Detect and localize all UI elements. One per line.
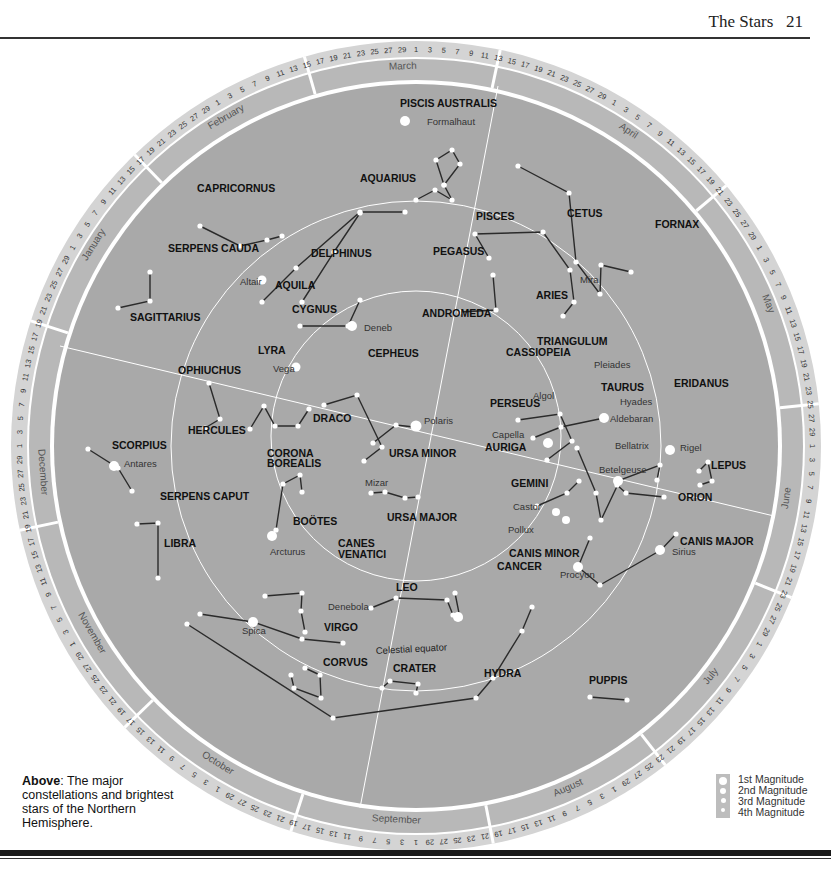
star-label: Pollux <box>508 524 534 535</box>
constellation-label: VIRGO <box>324 621 358 633</box>
star-label: Castor <box>513 501 541 512</box>
star-label: Bellatrix <box>615 440 649 451</box>
magnitude-4-dot <box>721 808 725 812</box>
day-tick: 21 <box>342 50 352 60</box>
constellation-label: LEPUS <box>711 459 746 471</box>
star-label: Denebola <box>328 601 369 612</box>
star-dot <box>291 685 296 690</box>
day-tick: 5 <box>16 416 25 421</box>
legend-labels: 1st Magnitude 2nd Magnitude 3rd Magnitud… <box>738 774 807 818</box>
star-dot <box>357 210 362 215</box>
star-dot <box>272 423 277 428</box>
constellation-label: URSA MAJOR <box>387 511 458 523</box>
star-dot <box>393 595 398 600</box>
star-label: Hyades <box>620 396 652 407</box>
star-dot <box>558 424 563 429</box>
star-dot <box>280 481 285 486</box>
day-tick: 27 <box>384 46 393 56</box>
bright-star <box>347 321 357 331</box>
day-tick: 1 <box>414 45 418 54</box>
star-dot <box>473 695 478 700</box>
constellation-label: DRACO <box>313 412 352 424</box>
star-dot <box>206 380 211 385</box>
star-dot <box>317 672 322 677</box>
star-dot <box>515 417 520 422</box>
star-dot <box>457 161 462 166</box>
day-tick: 21 <box>480 831 490 841</box>
month-label: March <box>389 60 417 72</box>
star-dot <box>433 157 438 162</box>
star-dot <box>299 636 304 641</box>
constellation-label: ERIDANUS <box>674 377 729 389</box>
magnitude-3-dot <box>721 798 726 803</box>
star-dot <box>441 182 446 187</box>
star-dot <box>370 440 375 445</box>
constellation-label: LYRA <box>258 344 286 356</box>
star-dot <box>530 435 535 440</box>
day-tick: 23 <box>804 386 814 396</box>
star-dot <box>262 593 267 598</box>
constellation-label: SERPENS CAUDA <box>168 242 259 254</box>
constellation-label: OPHIUCHUS <box>178 364 241 376</box>
star-dot <box>318 695 323 700</box>
star-dot <box>129 488 134 493</box>
star-dot <box>540 229 545 234</box>
star-dot <box>321 402 326 407</box>
day-tick: 11 <box>480 50 489 60</box>
star-dot <box>302 629 307 634</box>
star-label: Arcturus <box>270 546 306 557</box>
star-dot <box>598 517 603 522</box>
bright-star <box>552 508 560 516</box>
day-tick: 21 <box>801 372 811 382</box>
star-dot <box>697 482 702 487</box>
star-dot <box>155 575 160 580</box>
star-label: Antares <box>124 458 157 469</box>
star-label: Spica <box>242 625 266 636</box>
constellation-label: LIBRA <box>164 537 196 549</box>
star-dot <box>288 672 293 677</box>
bright-star <box>543 438 553 448</box>
constellation-label: SCORPIUS <box>112 439 167 451</box>
star-dot <box>432 187 437 192</box>
star-dot <box>515 163 520 168</box>
caption-lead: Above <box>22 774 60 788</box>
star-dot <box>587 535 592 540</box>
star-dot <box>259 299 264 304</box>
star-dot <box>560 313 565 318</box>
day-tick: 23 <box>356 48 366 58</box>
star-dot <box>623 490 628 495</box>
star-dot <box>306 406 311 411</box>
day-tick: 23 <box>466 834 476 844</box>
day-tick: 11 <box>20 373 30 382</box>
constellation-label: HYDRA <box>484 667 522 679</box>
star-dot <box>217 416 222 421</box>
bright-star <box>599 413 609 423</box>
star-dot <box>368 605 373 610</box>
constellation-label: DELPHINUS <box>311 247 372 259</box>
star-dot <box>264 237 269 242</box>
star-dot <box>402 495 407 500</box>
star-label: Rigel <box>680 442 702 453</box>
star-dot <box>330 715 335 720</box>
day-tick: 3 <box>400 838 404 847</box>
star-dot <box>413 690 418 695</box>
star-label: Vega <box>273 363 295 374</box>
day-tick: 11 <box>343 831 352 841</box>
star-label: Capella <box>492 429 525 440</box>
day-tick: 23 <box>18 496 28 506</box>
constellation-label: CRATER <box>393 662 436 674</box>
star-dot <box>472 231 477 236</box>
star-dot <box>624 697 629 702</box>
star-dot <box>573 259 578 264</box>
star-label: Betelgeuse <box>599 464 647 475</box>
day-tick: 3 <box>15 430 24 434</box>
star-dot <box>298 608 303 613</box>
star-dot <box>85 446 90 451</box>
constellation-label: TAURUS <box>601 381 644 393</box>
star-dot <box>576 478 581 483</box>
star-dot <box>449 147 454 152</box>
star-dot <box>486 255 491 260</box>
day-tick: 1 <box>808 444 817 448</box>
star-dot <box>567 267 572 272</box>
star-dot <box>673 531 678 536</box>
